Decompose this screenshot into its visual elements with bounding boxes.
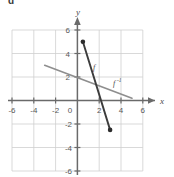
coordinate-plane: -6 -4 -2 0 2 4 6 6 4 2 -2 -4 -6 x y f f … [0, 0, 174, 177]
x-axis-label: x [159, 96, 164, 106]
x-axis-arrow-icon [148, 97, 155, 104]
y-tick-label: 4 [66, 50, 71, 59]
x-tick-label: -2 [52, 106, 60, 115]
curve-f-segment [83, 42, 110, 130]
curve-f-endpoint-upper [81, 40, 86, 45]
x-tick-label: 6 [141, 106, 146, 115]
y-tick-label: -6 [65, 167, 73, 176]
y-tick-label: -4 [65, 144, 73, 153]
x-tick-label: -6 [8, 106, 16, 115]
curve-f-label: f [93, 63, 97, 72]
figure-corner-label: d [8, 0, 14, 6]
y-tick-label: 2 [66, 73, 71, 82]
x-tick-label: -4 [30, 106, 38, 115]
y-tick-label: 6 [66, 26, 71, 35]
curve-f-inverse-exponent: -1 [117, 77, 122, 83]
curve-f-endpoint-lower [108, 128, 113, 133]
graph-figure: d [0, 0, 174, 177]
y-axis-label: y [75, 7, 80, 17]
x-tick-label: 2 [97, 106, 102, 115]
y-axis-arrow-icon [74, 17, 81, 25]
x-tick-label: 4 [119, 106, 124, 115]
x-tick-label-origin: 0 [68, 106, 73, 115]
y-tick-label: -2 [65, 120, 73, 129]
